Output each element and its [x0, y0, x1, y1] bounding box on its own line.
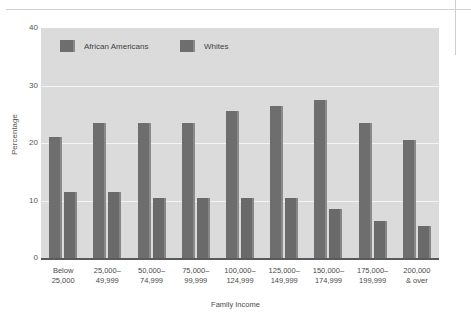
bar-whites [64, 192, 77, 258]
bar-whites [329, 209, 342, 258]
bar-side [340, 209, 342, 258]
bar-group [218, 28, 262, 258]
bar-group [306, 28, 350, 258]
legend-label: African Americans [84, 42, 148, 51]
bar-face [403, 140, 414, 258]
x-tick-label-line: 200,000 [388, 266, 446, 276]
bar-side [237, 111, 239, 258]
bar-face [374, 221, 385, 258]
y-tick-label: 40 [8, 24, 38, 32]
bar-face [226, 111, 237, 258]
bar-group [41, 28, 85, 258]
bar-face [49, 137, 60, 258]
bar-face [197, 198, 208, 258]
bar-face [329, 209, 340, 258]
bar-side [296, 198, 298, 258]
bar-face [93, 123, 104, 258]
y-tick-label: 10 [8, 197, 38, 205]
legend-item: Whites [180, 40, 228, 52]
bar-face [285, 198, 296, 258]
bar-african-americans [403, 140, 416, 258]
x-axis-title: Family Income [0, 300, 471, 309]
bar-african-americans [182, 123, 195, 258]
bar-african-americans [226, 111, 239, 258]
x-tick-labels: Below25,00025,000–49,99950,000–74,99975,… [41, 266, 439, 300]
legend-item: African Americans [60, 40, 148, 52]
bar-group [174, 28, 218, 258]
bar-side [414, 140, 416, 258]
bar-african-americans [93, 123, 106, 258]
x-axis-line [41, 258, 439, 260]
bar-whites [197, 198, 210, 258]
legend-swatch-icon [180, 40, 195, 52]
bar-side [385, 221, 387, 258]
legend-label: Whites [204, 42, 228, 51]
y-tick-label: 0 [8, 254, 38, 262]
bar-side [164, 198, 166, 258]
bar-side [193, 123, 195, 258]
bar-face [153, 198, 164, 258]
bar-face [241, 198, 252, 258]
scan-artifact-right-tick [446, 9, 470, 10]
bar-side [149, 123, 151, 258]
bar-side [119, 192, 121, 258]
bar-group [395, 28, 439, 258]
bar-african-americans [359, 123, 372, 258]
bar-face [314, 100, 325, 258]
bar-face [182, 123, 193, 258]
bar-group [351, 28, 395, 258]
bar-side [370, 123, 372, 258]
bar-group [129, 28, 173, 258]
bar-group [262, 28, 306, 258]
bar-side [104, 123, 106, 258]
bar-face [418, 226, 429, 258]
bar-african-americans [138, 123, 151, 258]
bar-whites [374, 221, 387, 258]
bar-whites [285, 198, 298, 258]
bar-chart: 010203040 Percentage Below25,00025,000–4… [0, 0, 471, 328]
legend-swatch-icon [60, 40, 75, 52]
bar-african-americans [270, 106, 283, 258]
bar-african-americans [314, 100, 327, 258]
bar-side [208, 198, 210, 258]
bar-whites [108, 192, 121, 258]
bar-face [138, 123, 149, 258]
bar-side [252, 198, 254, 258]
bar-side [325, 100, 327, 258]
bar-side [75, 192, 77, 258]
bar-whites [241, 198, 254, 258]
x-tick-label-line: & over [388, 276, 446, 286]
plot-area [41, 28, 439, 258]
bar-face [270, 106, 281, 258]
y-axis-title: Percentage [10, 95, 19, 175]
bar-group [85, 28, 129, 258]
bar-side [60, 137, 62, 258]
bar-face [359, 123, 370, 258]
bar-whites [153, 198, 166, 258]
bar-face [64, 192, 75, 258]
y-tick-label: 30 [8, 82, 38, 90]
bar-side [281, 106, 283, 258]
bar-whites [418, 226, 431, 258]
x-tick-label: 200,000& over [388, 266, 446, 285]
bar-african-americans [49, 137, 62, 258]
bar-face [108, 192, 119, 258]
scan-artifact-top-rule [6, 9, 471, 10]
bar-side [429, 226, 431, 258]
